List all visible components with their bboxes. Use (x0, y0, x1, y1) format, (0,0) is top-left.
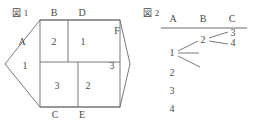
branch-from-1-0 (178, 41, 198, 51)
column-header-a-0: A (169, 14, 176, 24)
node-a-3-2: 3 (170, 86, 175, 96)
node-a-2-1: 2 (170, 68, 175, 78)
node-c-4-1: 4 (231, 38, 236, 48)
branch-from-2-0 (209, 32, 228, 38)
branch-from-1-2 (178, 56, 200, 67)
figure-2-graphic (0, 0, 253, 128)
column-header-b-1: B (200, 14, 207, 24)
node-a-1-0: 1 (170, 48, 175, 58)
column-header-c-2: C (229, 14, 236, 24)
node-a-4-3: 4 (170, 104, 175, 114)
figure-sheet: 図 1 ABDFCE 121323 図 2 ABC 1234 2 34 (0, 0, 253, 128)
branches-from-node-2 (209, 32, 228, 44)
node-b-2-0: 2 (201, 35, 206, 45)
branches-from-node-1 (178, 41, 200, 67)
branch-from-2-1 (209, 41, 228, 44)
